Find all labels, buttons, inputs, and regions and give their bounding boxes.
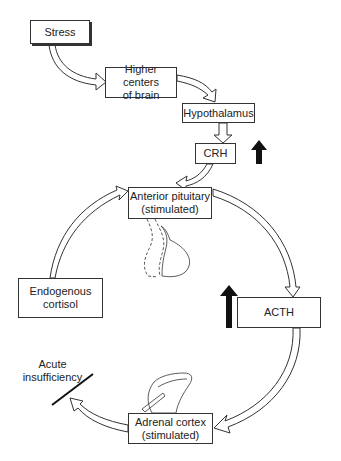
arrow-stress-to-higher-centers bbox=[49, 45, 106, 90]
anterior-pituitary-label-line2: (stimulated) bbox=[141, 203, 198, 216]
acth-label: ACTH bbox=[264, 306, 294, 319]
higher-centers-label-line1: Higher centers bbox=[106, 63, 176, 89]
endogenous-cortisol-label-line1: Endogenous bbox=[30, 285, 92, 298]
pituitary-gland-illustration bbox=[144, 219, 189, 277]
hypothalamus-box: Hypothalamus bbox=[182, 103, 255, 123]
arrow-hypothalamus-to-crh bbox=[214, 123, 232, 143]
arrow-acth-to-adrenal bbox=[214, 328, 300, 433]
crh-label: CRH bbox=[204, 147, 228, 160]
hypothalamus-label: Hypothalamus bbox=[183, 107, 253, 120]
crh-box: CRH bbox=[195, 143, 236, 164]
arrow-higher-centers-to-hypothalamus bbox=[177, 75, 216, 102]
adrenal-cortex-label-line1: Adrenal cortex bbox=[135, 416, 206, 429]
adrenal-cortex-box: Adrenal cortex (stimulated) bbox=[128, 413, 213, 444]
crh-increase-arrow-icon bbox=[251, 140, 267, 164]
stress-label: Stress bbox=[44, 26, 75, 39]
acute-insufficiency-line2: insufficiency bbox=[15, 371, 90, 384]
endogenous-cortisol-box: Endogenous cortisol bbox=[18, 278, 103, 318]
higher-centers-box: Higher centers of brain bbox=[105, 67, 177, 98]
acute-insufficiency-label: Acute insufficiency bbox=[15, 358, 90, 384]
anterior-pituitary-label-line1: Anterior pituitary bbox=[130, 190, 210, 203]
arrow-cortisol-to-pituitary bbox=[50, 186, 128, 278]
higher-centers-label-line2: of brain bbox=[123, 89, 160, 102]
stress-box: Stress bbox=[30, 20, 90, 44]
arrow-adrenal-to-cortisol-blocked bbox=[70, 398, 128, 432]
anterior-pituitary-box: Anterior pituitary (stimulated) bbox=[128, 187, 212, 219]
adrenal-cortex-label-line2: (stimulated) bbox=[142, 429, 199, 442]
arrow-pituitary-to-acth bbox=[213, 189, 300, 297]
acute-insufficiency-line1: Acute bbox=[15, 358, 90, 371]
acth-box: ACTH bbox=[237, 297, 321, 328]
endogenous-cortisol-label-line2: cortisol bbox=[43, 298, 78, 311]
adrenal-gland-illustration bbox=[142, 373, 192, 413]
acth-increase-arrow-icon bbox=[220, 285, 238, 328]
